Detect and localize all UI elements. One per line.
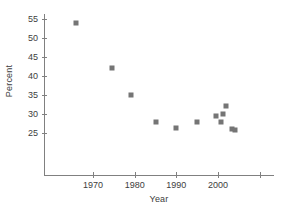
data-point [109, 66, 114, 71]
scatter-plot-figure: 55504540353025 1970198019902000 Percent … [0, 0, 281, 213]
y-tick-label: 30 [20, 110, 38, 119]
y-tick-label: 50 [20, 34, 38, 43]
y-tick-label: 45 [20, 53, 38, 62]
x-tick-mark [260, 172, 261, 178]
y-axis-title: Percent [4, 53, 14, 109]
y-tick-label: 55 [20, 15, 38, 24]
x-axis-line [44, 175, 274, 176]
data-point [221, 111, 226, 116]
y-tick-label: 40 [20, 72, 38, 81]
x-tick-label: 1980 [115, 180, 155, 190]
plot-area: 55504540353025 1970198019902000 [0, 0, 281, 213]
data-point [218, 119, 223, 124]
x-tick-mark [135, 172, 136, 178]
data-point [128, 93, 133, 98]
y-tick-label: 25 [20, 129, 38, 138]
data-point [74, 20, 79, 25]
data-point [195, 120, 200, 125]
y-tick-mark [42, 19, 47, 20]
data-point [232, 128, 237, 133]
x-axis-title: Year [44, 194, 274, 204]
data-point [224, 103, 229, 108]
x-tick-mark [218, 172, 219, 178]
data-point [153, 119, 158, 124]
y-tick-mark [42, 76, 47, 77]
data-point [213, 113, 218, 118]
y-tick-mark [42, 57, 47, 58]
y-tick-mark [42, 95, 47, 96]
x-tick-label: 1970 [73, 180, 113, 190]
data-point [174, 125, 179, 130]
x-tick-label: 2000 [198, 180, 238, 190]
y-tick-mark [42, 133, 47, 134]
x-tick-mark [93, 172, 94, 178]
y-tick-mark [42, 38, 47, 39]
x-tick-mark [176, 172, 177, 178]
y-tick-mark [42, 114, 47, 115]
y-tick-label: 35 [20, 91, 38, 100]
x-tick-label: 1990 [156, 180, 196, 190]
